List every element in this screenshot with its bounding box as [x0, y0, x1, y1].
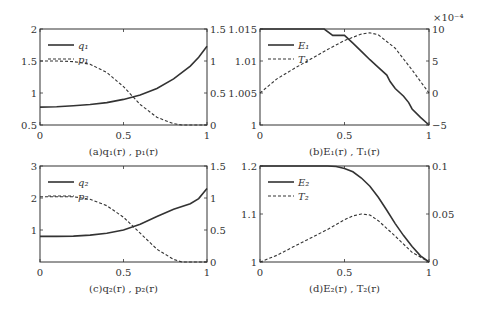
- right-y-tick-label: 0.1: [432, 161, 448, 172]
- right-y-tick-label: 10: [432, 24, 445, 35]
- right-y-tick-label: 1: [210, 56, 216, 67]
- legend-label: E₁: [297, 40, 309, 51]
- legend-label: T₂: [298, 191, 309, 202]
- x-tick-label: 0.5: [337, 267, 353, 278]
- legend-label: E₂: [297, 177, 309, 188]
- subplot-b: 00.5111.0051.011.015−50510×10⁻⁴E₁T₁(b)E₁…: [228, 12, 463, 157]
- left-y-tick-label: 2: [31, 24, 37, 35]
- right-y-tick-label: 0: [210, 120, 216, 131]
- series-q1: [40, 46, 207, 107]
- plot-frame: [40, 29, 207, 125]
- x-tick-label: 0.5: [116, 267, 132, 278]
- right-y-tick-label: 0.05: [432, 209, 454, 220]
- x-tick-label: 0: [257, 130, 263, 141]
- plot-frame: [260, 29, 429, 125]
- right-y-tick-label: 1.5: [210, 24, 226, 35]
- right-axis-multiplier: ×10⁻⁴: [433, 12, 463, 23]
- right-y-tick-label: 5: [432, 56, 438, 67]
- x-tick-label: 0.5: [116, 130, 132, 141]
- right-y-tick-label: 0: [432, 257, 438, 268]
- x-tick-label: 1: [426, 130, 432, 141]
- subplot-a: 00.510.511.5200.511.5q₁p₁(a)q₁(r) , p₁(r…: [21, 24, 226, 157]
- plot-frame: [260, 166, 429, 262]
- left-y-tick-label: 1.2: [241, 161, 257, 172]
- plot-frame: [40, 166, 207, 262]
- left-y-tick-label: 1.015: [228, 24, 257, 35]
- right-y-tick-label: 0: [432, 88, 438, 99]
- subplot-caption: (c)q₂(r) , p₂(r): [89, 283, 158, 294]
- series-T2: [260, 214, 429, 262]
- x-tick-label: 1: [204, 130, 210, 141]
- legend-label: p₁: [78, 54, 88, 65]
- x-tick-label: 1: [204, 267, 210, 278]
- left-y-tick-label: 1.01: [235, 56, 257, 67]
- x-tick-label: 0: [37, 130, 43, 141]
- right-y-tick-label: 1: [210, 193, 216, 204]
- left-y-tick-label: 3: [31, 161, 37, 172]
- series-E2: [260, 166, 429, 262]
- left-y-tick-label: 1: [31, 88, 37, 99]
- left-y-tick-label: 2: [31, 193, 37, 204]
- x-tick-label: 1: [426, 267, 432, 278]
- subplot-caption: (b)E₁(r) , T₁(r): [309, 146, 380, 157]
- left-y-tick-label: 0.5: [21, 120, 37, 131]
- series-p1: [40, 61, 207, 125]
- legend-label: p₂: [78, 191, 88, 202]
- right-y-tick-label: 1.5: [210, 161, 226, 172]
- subplot-caption: (a)q₁(r) , p₁(r): [89, 146, 158, 157]
- left-y-tick-label: 1: [251, 120, 257, 131]
- left-y-tick-label: 1.005: [228, 88, 257, 99]
- x-tick-label: 0: [37, 267, 43, 278]
- figure: 00.510.511.5200.511.5q₁p₁(a)q₁(r) , p₁(r…: [0, 0, 477, 314]
- legend-label: q₂: [78, 177, 88, 188]
- legend-label: q₁: [78, 40, 88, 51]
- subplot-c: 00.5112300.511.5q₂p₂(c)q₂(r) , p₂(r): [31, 161, 226, 294]
- subplot-caption: (d)E₂(r) , T₂(r): [309, 283, 380, 294]
- subplot-d: 00.5111.11.200.050.1E₂T₂(d)E₂(r) , T₂(r): [241, 161, 454, 294]
- right-y-tick-label: 0: [210, 257, 216, 268]
- left-y-tick-label: 1: [31, 225, 37, 236]
- x-tick-label: 0.5: [337, 130, 353, 141]
- right-y-tick-label: 0.5: [210, 225, 226, 236]
- right-y-tick-label: −5: [432, 120, 447, 131]
- left-y-tick-label: 1: [251, 257, 257, 268]
- left-y-tick-label: 1.5: [21, 56, 37, 67]
- left-y-tick-label: 1.1: [241, 209, 257, 220]
- figure-canvas: 00.510.511.5200.511.5q₁p₁(a)q₁(r) , p₁(r…: [0, 0, 477, 314]
- right-y-tick-label: 0.5: [210, 88, 226, 99]
- legend-label: T₁: [298, 54, 309, 65]
- x-tick-label: 0: [257, 267, 263, 278]
- series-T1: [260, 33, 429, 93]
- series-E1: [260, 29, 429, 125]
